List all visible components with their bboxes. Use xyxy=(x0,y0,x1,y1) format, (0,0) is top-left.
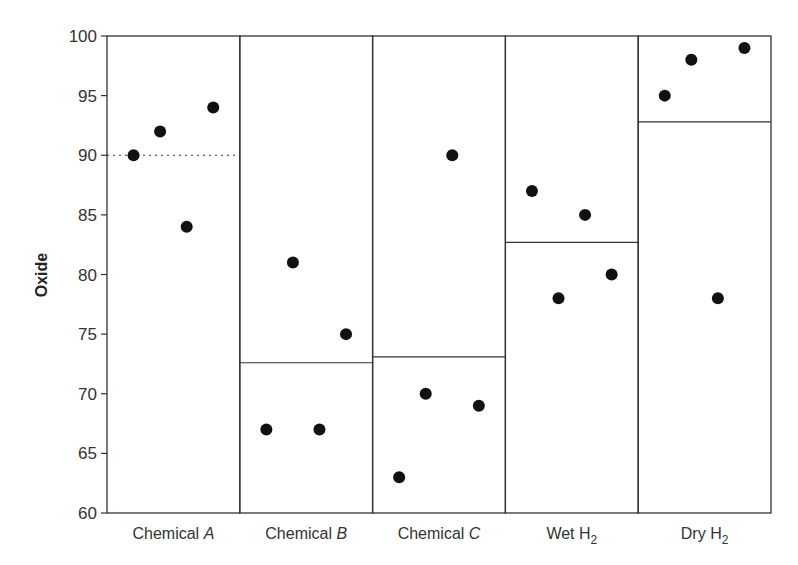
panel-frame xyxy=(240,36,373,513)
data-point xyxy=(313,424,325,436)
y-tick-label: 65 xyxy=(78,444,97,463)
data-point xyxy=(553,292,565,304)
data-point xyxy=(420,388,432,400)
y-tick-label: 100 xyxy=(69,27,97,46)
panel-frame xyxy=(373,36,506,513)
data-point xyxy=(181,221,193,233)
y-tick-label: 90 xyxy=(78,146,97,165)
data-point xyxy=(659,90,671,102)
data-point xyxy=(207,102,219,114)
data-point xyxy=(606,269,618,281)
y-tick-label: 70 xyxy=(78,385,97,404)
data-point xyxy=(473,400,485,412)
oxide-scatter-chart: 6065707580859095100 Chemical AChemical B… xyxy=(0,0,798,565)
data-points xyxy=(128,42,751,483)
data-point xyxy=(738,42,750,54)
y-tick-label: 95 xyxy=(78,87,97,106)
y-axis-title: Oxide xyxy=(33,253,50,298)
data-point xyxy=(393,471,405,483)
data-point xyxy=(260,424,272,436)
panel-frame xyxy=(505,36,638,513)
category-label: Chemical B xyxy=(265,525,347,542)
panel-frame xyxy=(638,36,771,513)
panel-frame xyxy=(107,36,240,513)
data-point xyxy=(685,54,697,66)
category-label: Chemical A xyxy=(132,525,214,542)
x-axis-labels: Chemical AChemical BChemical CWet H2Dry … xyxy=(132,525,728,547)
y-tick-label: 85 xyxy=(78,206,97,225)
y-tick-label: 60 xyxy=(78,504,97,523)
data-point xyxy=(579,209,591,221)
data-point xyxy=(154,125,166,137)
data-point xyxy=(287,257,299,269)
y-tick-label: 75 xyxy=(78,325,97,344)
data-point xyxy=(128,149,140,161)
data-point xyxy=(340,328,352,340)
data-point xyxy=(526,185,538,197)
y-tick-label: 80 xyxy=(78,266,97,285)
y-axis: 6065707580859095100 xyxy=(69,27,107,523)
chart-panels xyxy=(107,36,771,513)
data-point xyxy=(446,149,458,161)
category-label: Chemical C xyxy=(398,525,481,542)
category-label: Dry H2 xyxy=(681,525,729,547)
category-label: Wet H2 xyxy=(546,525,597,547)
data-point xyxy=(712,292,724,304)
